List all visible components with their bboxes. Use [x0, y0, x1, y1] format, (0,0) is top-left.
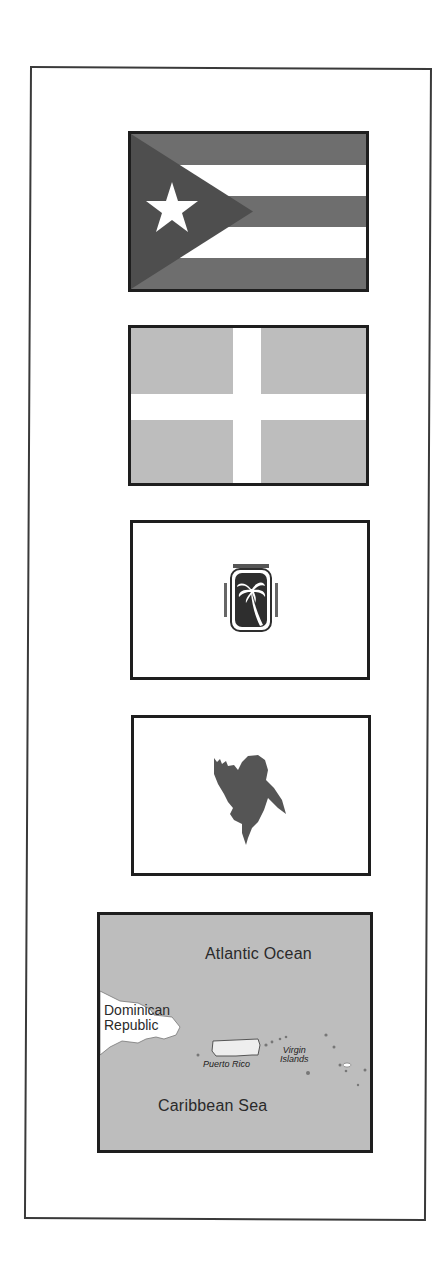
flag-palm-seal	[130, 520, 370, 680]
map-label-puerto-rico: Puerto Rico	[203, 1060, 250, 1069]
palm-seal-icon	[224, 564, 278, 631]
puerto-rico-landmass	[212, 1039, 260, 1056]
map-label-virgin-islands: Virgin Islands	[280, 1046, 309, 1064]
map-caribbean: Atlantic Ocean Dominican Republic Puerto…	[97, 912, 373, 1153]
flag-white-cross	[128, 325, 369, 486]
map-label-dominican-republic: Dominican Republic	[104, 1003, 170, 1033]
map-label-atlantic-ocean: Atlantic Ocean	[205, 945, 312, 963]
flag-jibaro-silhouette	[131, 715, 371, 876]
flag-puerto-rico	[128, 131, 369, 292]
map-label-caribbean-sea: Caribbean Sea	[158, 1097, 267, 1115]
